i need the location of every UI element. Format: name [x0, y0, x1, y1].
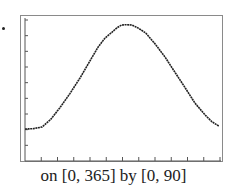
axes: [25, 18, 221, 161]
data-curve: [25, 25, 219, 129]
window-caption: on [0, 365] by [0, 90]: [0, 166, 227, 186]
line-chart: [0, 0, 227, 190]
